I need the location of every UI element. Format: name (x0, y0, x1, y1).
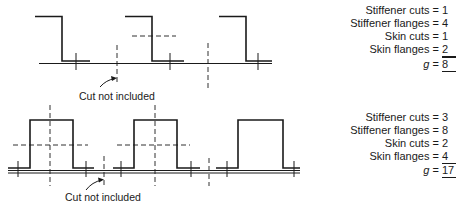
count-row: Skin flanges = 2 (350, 43, 456, 57)
count-label: Stiffener flanges (350, 124, 429, 136)
count-row: Stiffener flanges = 4 (350, 17, 456, 30)
count-label: Skin flanges (370, 150, 430, 162)
count-value: 2 (442, 43, 456, 57)
top-count-summary: Stiffener cuts = 1 Stiffener flanges = 4… (350, 4, 456, 72)
z-stiffener-2 (125, 17, 184, 62)
count-row: Stiffener cuts = 3 (350, 111, 456, 124)
count-label: Skin cuts (385, 137, 430, 149)
equals-sign: = (433, 124, 439, 136)
count-value: 3 (442, 111, 456, 124)
count-label: Skin cuts (385, 30, 430, 42)
equals-sign: = (433, 164, 439, 176)
total-label: g (423, 58, 429, 70)
total-value: 8 (442, 57, 456, 72)
top-z-stiffener-panel: Cut not included (35, 17, 272, 103)
count-row: Skin cuts = 2 (350, 137, 456, 150)
equals-sign: = (433, 43, 439, 55)
equals-sign: = (433, 137, 439, 149)
arrow-head-bottom (98, 178, 104, 183)
count-label: Skin flanges (370, 43, 430, 55)
z-stiffener-1 (35, 17, 90, 62)
count-row: Stiffener cuts = 1 (350, 4, 456, 17)
hat-stiffener-2 (113, 120, 200, 168)
total-row: g = 8 (350, 57, 456, 72)
count-value: 1 (442, 30, 456, 43)
total-row: g = 17 (350, 163, 456, 178)
hat-stiffener-1 (8, 120, 94, 168)
equals-sign: = (433, 150, 439, 162)
count-row: Stiffener flanges = 8 (350, 124, 456, 137)
count-row: Skin flanges = 4 (350, 150, 456, 163)
count-value: 1 (442, 4, 456, 17)
total-value: 17 (442, 163, 456, 178)
equals-sign: = (433, 17, 439, 29)
equals-sign: = (433, 58, 439, 70)
count-row: Skin cuts = 1 (350, 30, 456, 43)
equals-sign: = (433, 30, 439, 42)
count-label: Stiffener cuts (365, 111, 429, 123)
count-label: Stiffener flanges (350, 17, 429, 29)
bottom-count-summary: Stiffener cuts = 3 Stiffener flanges = 8… (350, 111, 456, 178)
equals-sign: = (433, 4, 439, 16)
bottom-hat-stiffener-panel: Cut not included (8, 105, 300, 203)
cut-annotation-top: Cut not included (79, 90, 155, 102)
count-value: 4 (442, 150, 456, 163)
cut-annotation-bottom: Cut not included (65, 191, 141, 203)
count-value: 2 (442, 137, 456, 150)
stiffened-panel-diagram: Cut not included Cut not included (0, 0, 300, 210)
hat-stiffener-3 (216, 120, 300, 168)
equals-sign: = (433, 111, 439, 123)
count-label: Stiffener cuts (365, 4, 429, 16)
count-value: 4 (442, 17, 456, 30)
z-stiffener-3 (219, 17, 272, 62)
arrow-head (111, 76, 117, 81)
total-label: g (423, 164, 429, 176)
count-value: 8 (442, 124, 456, 137)
